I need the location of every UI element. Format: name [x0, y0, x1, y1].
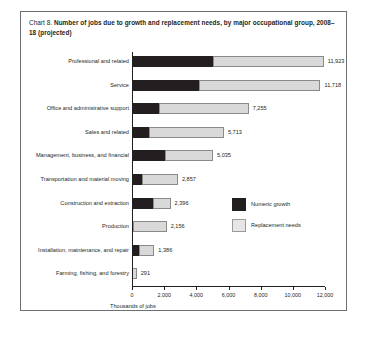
category-label: Production	[21, 219, 129, 234]
y-axis-line	[132, 52, 133, 286]
bar-row: Transportation and material moving2,857	[21, 172, 348, 187]
bar-segment-replacement	[133, 221, 167, 232]
x-axis-tick-label: 10,000	[285, 292, 302, 298]
bar-value-label: 5,713	[228, 125, 242, 140]
x-axis-tick-label: 6,000	[222, 292, 236, 298]
x-axis-tick	[325, 287, 326, 290]
bar-segment-growth	[132, 103, 159, 114]
plot-area: Professional and related11,923Service11,…	[21, 12, 348, 312]
legend-label-replacement: Replacement needs	[251, 219, 301, 232]
bar-segment-replacement	[139, 245, 154, 256]
x-axis-tick-label: 8,000	[254, 292, 268, 298]
category-label: Management, business, and financial	[21, 148, 129, 163]
x-axis-tick-label: 0	[131, 292, 134, 298]
x-axis-tick	[293, 287, 294, 290]
stacked-bar	[132, 56, 324, 67]
bar-segment-growth	[132, 56, 213, 67]
bar-segment-growth	[132, 174, 142, 185]
bar-row: Management, business, and financial5,035	[21, 148, 348, 163]
legend-label-growth: Numeric growth	[251, 198, 290, 211]
bar-value-label: 2,396	[175, 196, 189, 211]
x-axis-tick-label: 2,000	[157, 292, 171, 298]
category-label: Construction and extraction	[21, 196, 129, 211]
chart-panel: Chart 8. Number of jobs due to growth an…	[20, 11, 347, 311]
category-label: Transportation and material moving	[21, 172, 129, 187]
bar-value-label: 5,035	[217, 148, 231, 163]
legend-swatch-replacement-icon	[232, 219, 246, 232]
x-axis-tick	[132, 287, 133, 290]
category-label: Office and administrative support	[21, 101, 129, 116]
bar-segment-growth	[132, 245, 139, 256]
bar-segment-growth	[132, 127, 149, 138]
bar-segment-growth	[132, 80, 199, 91]
stacked-bar	[132, 103, 249, 114]
bar-segment-replacement	[213, 56, 324, 67]
bar-value-label: 1,386	[158, 243, 172, 258]
x-axis-tick	[229, 287, 230, 290]
bar-segment-replacement	[165, 150, 213, 161]
x-axis-tick	[261, 287, 262, 290]
stacked-bar	[132, 174, 178, 185]
stacked-bar	[132, 80, 320, 91]
bar-row: Office and administrative support7,255	[21, 101, 348, 116]
bar-segment-growth	[132, 150, 165, 161]
stacked-bar	[132, 150, 213, 161]
stacked-bar	[132, 221, 167, 232]
bar-row: Sales and related5,713	[21, 125, 348, 140]
category-label: Service	[21, 78, 129, 93]
bar-segment-replacement	[153, 198, 170, 209]
stacked-bar	[132, 127, 224, 138]
bar-value-label: 11,923	[328, 54, 345, 69]
category-label: Professional and related	[21, 54, 129, 69]
bar-segment-replacement	[159, 103, 249, 114]
bar-segment-growth	[132, 198, 153, 209]
bar-segment-replacement	[199, 80, 320, 91]
bar-value-label: 2,156	[171, 219, 185, 234]
stacked-bar	[132, 245, 154, 256]
bar-value-label: 7,255	[253, 101, 267, 116]
category-label: Sales and related	[21, 125, 129, 140]
bar-row: Service11,718	[21, 78, 348, 93]
x-axis-title: Thousands of jobs	[110, 303, 156, 309]
category-label: Farming, fishing, and forestry	[21, 266, 129, 281]
legend-swatch-growth-icon	[232, 198, 246, 211]
bar-row: Professional and related11,923	[21, 54, 348, 69]
x-axis-tick	[164, 287, 165, 290]
bar-value-label: 11,718	[324, 78, 341, 93]
bar-row: Farming, fishing, and forestry291	[21, 266, 348, 281]
bar-segment-replacement	[149, 127, 224, 138]
bar-value-label: 291	[141, 266, 150, 281]
x-axis-tick	[196, 287, 197, 290]
x-axis-tick-label: 4,000	[190, 292, 204, 298]
x-axis-tick-label: 12,000	[317, 292, 334, 298]
stacked-bar	[132, 198, 171, 209]
category-label: Installation, maintenance, and repair	[21, 243, 129, 258]
bar-value-label: 2,857	[182, 172, 196, 187]
bar-row: Installation, maintenance, and repair1,3…	[21, 243, 348, 258]
bar-row: Construction and extraction2,396	[21, 196, 348, 211]
bar-segment-replacement	[142, 174, 178, 185]
